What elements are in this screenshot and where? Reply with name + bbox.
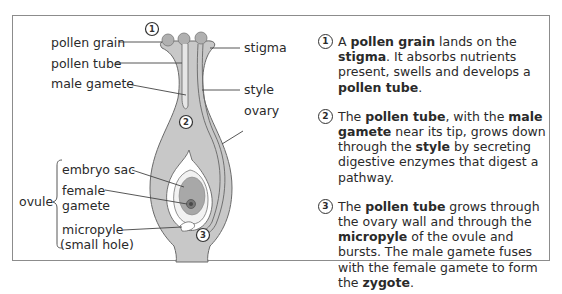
step-text-run: . <box>410 275 414 290</box>
step-2: 2 The pollen tube, with the male gamete … <box>318 109 554 185</box>
label-pollen-tube: pollen tube <box>51 56 122 71</box>
step-number-badge: 3 <box>318 199 333 214</box>
label-micropyle: micropyle <box>62 222 124 237</box>
label-gamete: gamete <box>62 198 110 213</box>
step-text-run: lands on the <box>435 34 517 49</box>
step-keyword: pollen tube <box>338 80 418 95</box>
pollen-grain-1 <box>162 34 174 46</box>
label-ovule: ovule <box>19 194 53 209</box>
leader-male-gamete <box>127 84 186 95</box>
label-style: style <box>244 82 274 97</box>
step-text-run: , with the <box>445 109 508 124</box>
step-text: The pollen tube, with the male gamete ne… <box>338 109 546 185</box>
marker-2: 2 <box>183 117 189 127</box>
step-number-badge: 1 <box>318 34 333 49</box>
step-list: 1 A pollen grain lands on the stigma. It… <box>318 34 554 294</box>
step-3: 3 The pollen tube grows through the ovar… <box>318 199 554 290</box>
label-pollen-grain: pollen grain <box>51 35 125 50</box>
step-keyword: style <box>416 139 450 154</box>
leader-ovary <box>222 131 243 144</box>
marker-3: 3 <box>200 230 206 240</box>
pollen-grain-2 <box>178 33 190 45</box>
step-keyword: stigma <box>338 49 386 64</box>
label-male-gamete: male gamete <box>51 76 134 91</box>
step-text: A pollen grain lands on the stigma. It a… <box>338 34 531 95</box>
step-text-run: The <box>338 109 365 124</box>
step-text: The pollen tube grows through the ovary … <box>338 199 540 290</box>
step-keyword: pollen grain <box>351 34 436 49</box>
ovule-bracket <box>53 160 62 248</box>
label-ovary: ovary <box>244 103 279 118</box>
step-number-badge: 2 <box>318 109 333 124</box>
step-text-run: . <box>418 80 422 95</box>
step-keyword: pollen tube <box>365 109 445 124</box>
step-keyword: zygote <box>363 275 410 290</box>
pollen-grain-3 <box>195 32 207 44</box>
step-keyword: pollen tube <box>365 199 445 214</box>
step-1: 1 A pollen grain lands on the stigma. It… <box>318 34 554 95</box>
label-embryo-sac: embryo sac <box>62 162 135 177</box>
marker-1: 1 <box>149 24 155 34</box>
step-text-run: A <box>338 34 351 49</box>
label-stigma: stigma <box>244 40 287 55</box>
label-small-hole: (small hole) <box>60 237 134 252</box>
pollen-tube-short <box>182 44 188 109</box>
label-female: female <box>62 183 105 198</box>
step-keyword: micropyle <box>338 229 407 244</box>
embryo-sac <box>179 177 205 215</box>
step-text-run: The <box>338 199 365 214</box>
